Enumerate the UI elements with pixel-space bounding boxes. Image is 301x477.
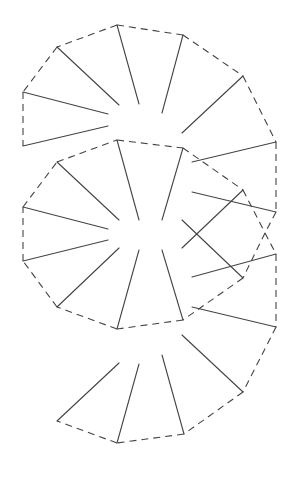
dashed-edge bbox=[183, 278, 243, 320]
solid-spoke bbox=[23, 207, 108, 229]
solid-spoke bbox=[192, 142, 276, 162]
dashed-edge bbox=[117, 434, 184, 443]
dashed-edge bbox=[243, 76, 276, 142]
dashed-edge bbox=[265, 233, 276, 254]
dashed-edge bbox=[183, 35, 243, 76]
fold-diagram bbox=[0, 0, 301, 477]
bottom-fan-group bbox=[57, 327, 276, 443]
dashed-edge bbox=[183, 148, 243, 190]
solid-spoke bbox=[117, 250, 139, 329]
solid-spoke bbox=[23, 92, 108, 114]
dashed-edge bbox=[57, 307, 117, 329]
solid-spoke bbox=[57, 248, 119, 307]
dashed-edge bbox=[243, 327, 276, 392]
dashed-edge bbox=[243, 190, 265, 233]
right-fan-group bbox=[192, 142, 276, 327]
solid-spoke bbox=[162, 148, 183, 220]
solid-spoke bbox=[162, 355, 184, 434]
middle-octagon-group bbox=[23, 140, 265, 329]
solid-spoke bbox=[57, 47, 119, 105]
solid-spoke bbox=[117, 140, 139, 220]
top-fan-group bbox=[23, 25, 276, 162]
dashed-edge bbox=[265, 212, 276, 233]
solid-spoke bbox=[182, 335, 243, 392]
dashed-edge bbox=[23, 261, 57, 307]
solid-spoke bbox=[182, 76, 243, 133]
solid-spoke bbox=[192, 192, 276, 212]
solid-spoke bbox=[57, 363, 119, 421]
solid-spoke bbox=[182, 220, 243, 278]
solid-spoke bbox=[192, 254, 276, 277]
dashed-edge bbox=[23, 162, 57, 207]
solid-spoke bbox=[117, 364, 139, 443]
dashed-edge bbox=[117, 140, 183, 148]
dashed-edge bbox=[117, 25, 183, 35]
dashed-edge bbox=[57, 421, 117, 443]
solid-spoke bbox=[23, 240, 108, 261]
dashed-edge bbox=[23, 47, 57, 92]
solid-spoke bbox=[162, 250, 183, 320]
solid-spoke bbox=[182, 190, 243, 248]
solid-spoke bbox=[57, 162, 119, 220]
solid-spoke bbox=[162, 35, 183, 113]
solid-spoke bbox=[23, 126, 108, 146]
dashed-edge bbox=[57, 140, 117, 162]
dashed-edge bbox=[57, 25, 117, 47]
dashed-edge bbox=[184, 392, 243, 434]
dashed-edge bbox=[117, 320, 183, 329]
solid-spoke bbox=[117, 25, 139, 104]
dashed-edge bbox=[243, 233, 265, 278]
solid-spoke bbox=[192, 307, 276, 327]
